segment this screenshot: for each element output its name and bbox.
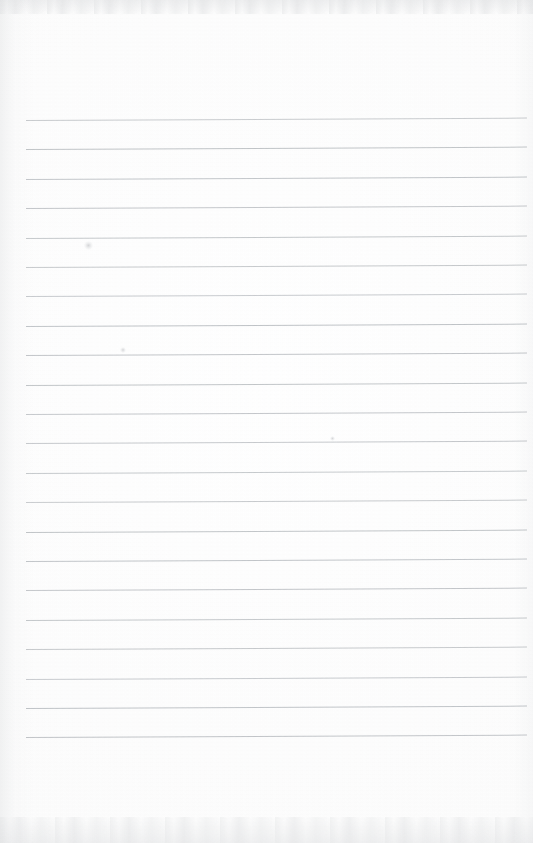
ruled-line bbox=[26, 176, 527, 179]
ruled-line bbox=[26, 265, 527, 268]
ruled-line bbox=[26, 353, 527, 356]
ruled-line bbox=[26, 206, 527, 209]
ruled-line bbox=[26, 500, 527, 503]
scanned-page: Blank Ruled Notebook Page A scanned blan… bbox=[0, 0, 533, 843]
ruled-line bbox=[26, 588, 527, 591]
ruled-line bbox=[26, 470, 527, 473]
ruled-line bbox=[26, 118, 527, 121]
ruled-line bbox=[26, 294, 527, 297]
ruled-line bbox=[26, 559, 527, 562]
scan-speck-artifact bbox=[84, 241, 93, 250]
ruled-line bbox=[26, 706, 527, 709]
ruled-line bbox=[26, 147, 527, 150]
ruled-line bbox=[26, 676, 527, 679]
ruled-line bbox=[26, 529, 527, 532]
ruled-line bbox=[26, 235, 527, 238]
ruled-line bbox=[26, 412, 527, 415]
ruled-line bbox=[26, 647, 527, 650]
scan-speck-artifact bbox=[330, 436, 335, 441]
ruled-line bbox=[26, 735, 527, 738]
ruled-line bbox=[26, 382, 527, 385]
ruled-line bbox=[26, 441, 527, 444]
ruled-lines-layer bbox=[0, 0, 533, 843]
ruled-line bbox=[26, 617, 527, 620]
ruled-line bbox=[26, 323, 527, 326]
scan-speck-artifact bbox=[120, 347, 126, 353]
